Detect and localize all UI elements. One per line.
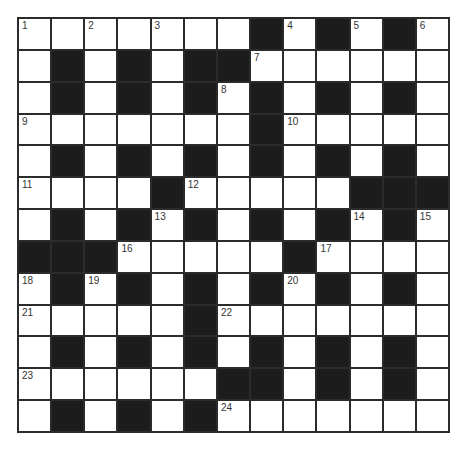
answer-cell[interactable] bbox=[384, 306, 415, 336]
answer-cell[interactable] bbox=[85, 178, 116, 208]
answer-cell[interactable] bbox=[118, 369, 149, 399]
answer-cell[interactable] bbox=[284, 369, 315, 399]
answer-cell[interactable]: 19 bbox=[85, 274, 116, 304]
answer-cell[interactable]: 11 bbox=[19, 178, 50, 208]
answer-cell[interactable] bbox=[218, 178, 249, 208]
answer-cell[interactable] bbox=[251, 306, 282, 336]
answer-cell[interactable]: 24 bbox=[218, 401, 249, 431]
answer-cell[interactable] bbox=[85, 337, 116, 367]
answer-cell[interactable] bbox=[284, 306, 315, 336]
answer-cell[interactable]: 21 bbox=[19, 306, 50, 336]
answer-cell[interactable] bbox=[152, 83, 183, 113]
answer-cell[interactable] bbox=[152, 242, 183, 272]
answer-cell[interactable] bbox=[417, 242, 448, 272]
answer-cell[interactable]: 1 bbox=[19, 19, 50, 49]
answer-cell[interactable]: 6 bbox=[417, 19, 448, 49]
answer-cell[interactable] bbox=[351, 401, 382, 431]
answer-cell[interactable] bbox=[351, 115, 382, 145]
answer-cell[interactable] bbox=[85, 369, 116, 399]
answer-cell[interactable] bbox=[317, 306, 348, 336]
answer-cell[interactable] bbox=[52, 369, 83, 399]
answer-cell[interactable] bbox=[52, 115, 83, 145]
answer-cell[interactable] bbox=[218, 146, 249, 176]
answer-cell[interactable]: 13 bbox=[152, 210, 183, 240]
answer-cell[interactable] bbox=[384, 401, 415, 431]
answer-cell[interactable] bbox=[52, 306, 83, 336]
answer-cell[interactable] bbox=[417, 83, 448, 113]
answer-cell[interactable] bbox=[118, 178, 149, 208]
answer-cell[interactable] bbox=[218, 19, 249, 49]
answer-cell[interactable]: 16 bbox=[118, 242, 149, 272]
answer-cell[interactable] bbox=[317, 178, 348, 208]
answer-cell[interactable] bbox=[52, 178, 83, 208]
answer-cell[interactable] bbox=[85, 115, 116, 145]
answer-cell[interactable]: 14 bbox=[351, 210, 382, 240]
answer-cell[interactable]: 23 bbox=[19, 369, 50, 399]
answer-cell[interactable] bbox=[317, 115, 348, 145]
answer-cell[interactable] bbox=[218, 242, 249, 272]
answer-cell[interactable] bbox=[251, 401, 282, 431]
answer-cell[interactable] bbox=[417, 401, 448, 431]
answer-cell[interactable] bbox=[19, 146, 50, 176]
answer-cell[interactable] bbox=[85, 51, 116, 81]
answer-cell[interactable]: 4 bbox=[284, 19, 315, 49]
answer-cell[interactable] bbox=[351, 83, 382, 113]
answer-cell[interactable]: 10 bbox=[284, 115, 315, 145]
answer-cell[interactable] bbox=[284, 401, 315, 431]
answer-cell[interactable] bbox=[152, 146, 183, 176]
answer-cell[interactable] bbox=[19, 401, 50, 431]
answer-cell[interactable] bbox=[284, 178, 315, 208]
answer-cell[interactable] bbox=[284, 337, 315, 367]
answer-cell[interactable] bbox=[185, 19, 216, 49]
answer-cell[interactable] bbox=[218, 115, 249, 145]
answer-cell[interactable] bbox=[118, 115, 149, 145]
answer-cell[interactable] bbox=[152, 274, 183, 304]
answer-cell[interactable] bbox=[284, 51, 315, 81]
answer-cell[interactable] bbox=[351, 306, 382, 336]
answer-cell[interactable] bbox=[251, 178, 282, 208]
answer-cell[interactable] bbox=[417, 115, 448, 145]
answer-cell[interactable] bbox=[417, 51, 448, 81]
answer-cell[interactable]: 18 bbox=[19, 274, 50, 304]
answer-cell[interactable] bbox=[351, 51, 382, 81]
answer-cell[interactable] bbox=[218, 337, 249, 367]
answer-cell[interactable] bbox=[152, 337, 183, 367]
answer-cell[interactable] bbox=[384, 51, 415, 81]
answer-cell[interactable] bbox=[417, 274, 448, 304]
answer-cell[interactable] bbox=[85, 83, 116, 113]
answer-cell[interactable] bbox=[417, 369, 448, 399]
answer-cell[interactable] bbox=[284, 83, 315, 113]
answer-cell[interactable]: 9 bbox=[19, 115, 50, 145]
answer-cell[interactable]: 5 bbox=[351, 19, 382, 49]
answer-cell[interactable] bbox=[152, 306, 183, 336]
answer-cell[interactable] bbox=[118, 19, 149, 49]
answer-cell[interactable] bbox=[317, 401, 348, 431]
answer-cell[interactable] bbox=[417, 337, 448, 367]
answer-cell[interactable] bbox=[152, 401, 183, 431]
answer-cell[interactable] bbox=[152, 115, 183, 145]
answer-cell[interactable]: 15 bbox=[417, 210, 448, 240]
answer-cell[interactable] bbox=[118, 306, 149, 336]
answer-cell[interactable] bbox=[417, 306, 448, 336]
answer-cell[interactable] bbox=[85, 210, 116, 240]
answer-cell[interactable] bbox=[317, 51, 348, 81]
answer-cell[interactable] bbox=[19, 51, 50, 81]
answer-cell[interactable] bbox=[19, 83, 50, 113]
answer-cell[interactable]: 7 bbox=[251, 51, 282, 81]
answer-cell[interactable]: 12 bbox=[185, 178, 216, 208]
answer-cell[interactable] bbox=[185, 242, 216, 272]
answer-cell[interactable] bbox=[19, 210, 50, 240]
answer-cell[interactable] bbox=[85, 306, 116, 336]
answer-cell[interactable] bbox=[152, 369, 183, 399]
answer-cell[interactable]: 8 bbox=[218, 83, 249, 113]
answer-cell[interactable] bbox=[218, 274, 249, 304]
answer-cell[interactable]: 17 bbox=[317, 242, 348, 272]
answer-cell[interactable]: 2 bbox=[85, 19, 116, 49]
answer-cell[interactable] bbox=[417, 146, 448, 176]
answer-cell[interactable] bbox=[351, 369, 382, 399]
answer-cell[interactable] bbox=[85, 401, 116, 431]
answer-cell[interactable]: 20 bbox=[284, 274, 315, 304]
answer-cell[interactable] bbox=[19, 337, 50, 367]
answer-cell[interactable] bbox=[384, 115, 415, 145]
answer-cell[interactable] bbox=[284, 146, 315, 176]
